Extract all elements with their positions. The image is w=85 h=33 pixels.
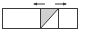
diagram [0, 0, 85, 33]
arrow-left-icon [33, 3, 45, 6]
arrow-right-icon [55, 3, 67, 6]
